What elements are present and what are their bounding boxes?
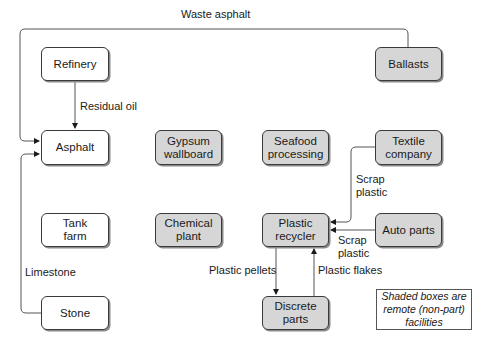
node-auto-parts: Auto parts: [375, 213, 442, 247]
node-gypsum-wallboard: Gypsum wallboard: [155, 130, 222, 165]
label-plastic-flakes: Plastic flakes: [318, 264, 382, 277]
node-discrete-parts: Discrete parts: [262, 296, 329, 330]
node-plastic-recycler: Plastic recycler: [262, 213, 329, 247]
node-asphalt: Asphalt: [41, 130, 109, 165]
node-chemical-plant: Chemical plant: [155, 213, 222, 247]
edge-waste-asphalt: [20, 29, 408, 141]
label-scrap-plastic-auto: Scrap plastic: [338, 234, 369, 260]
node-refinery: Refinery: [41, 47, 109, 81]
edge-limestone: [21, 154, 41, 313]
node-stone: Stone: [41, 296, 109, 330]
legend-note: Shaded boxes are remote (non-part) facil…: [376, 289, 472, 330]
label-scrap-plastic-textile: Scrap plastic: [356, 173, 387, 199]
label-residual-oil: Residual oil: [80, 100, 137, 113]
label-plastic-pellets: Plastic pellets: [209, 264, 276, 277]
node-textile-company: Textile company: [375, 130, 442, 165]
label-limestone: Limestone: [25, 266, 76, 279]
node-tank-farm: Tank farm: [41, 213, 109, 247]
label-waste-asphalt: Waste asphalt: [181, 8, 250, 21]
node-seafood-processing: Seafood processing: [262, 130, 329, 165]
node-ballasts: Ballasts: [375, 47, 442, 81]
